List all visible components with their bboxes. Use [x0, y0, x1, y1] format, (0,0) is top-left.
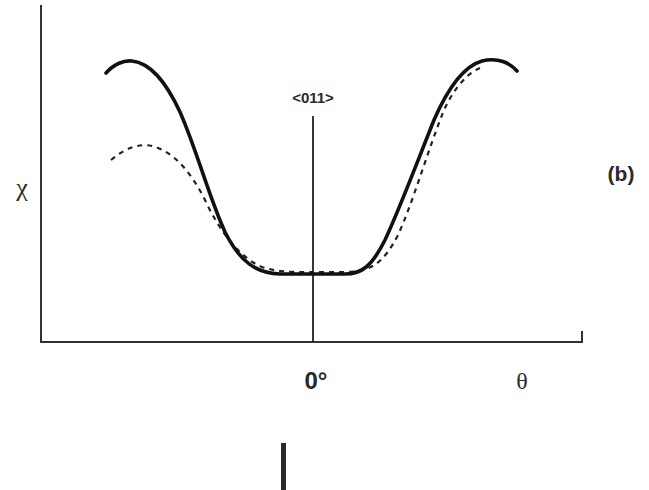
y-axis-label: χ — [15, 173, 28, 202]
panel-label: (b) — [608, 162, 635, 185]
partial-bar-fragment — [281, 443, 286, 490]
direction-marker-label: <011> — [292, 89, 334, 106]
x-axis-label: θ — [516, 368, 528, 394]
origin-tick-label: 0° — [305, 367, 328, 394]
chart-canvas: χ <011> (b) 0° θ — [0, 0, 649, 490]
